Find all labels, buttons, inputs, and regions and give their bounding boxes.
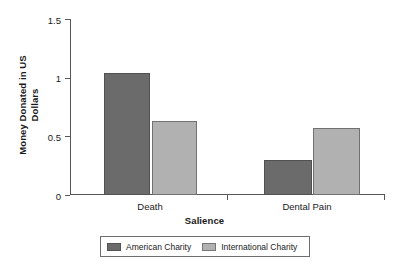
- legend-swatch-american-charity: [107, 243, 121, 251]
- bar-death-american-charity: [104, 73, 150, 195]
- x-category-label-dental-pain: Dental Pain: [282, 201, 331, 212]
- bar-death-international-charity: [152, 121, 197, 195]
- y-tick-label-1point5: 1.5: [48, 14, 61, 25]
- chart-legend: American Charity International Charity: [100, 236, 310, 257]
- y-tick-1: 1: [65, 78, 70, 79]
- y-tick-0point5: 0.5: [65, 136, 70, 137]
- y-tick-0: 0: [65, 195, 70, 196]
- y-tick-label-0point5: 0.5: [48, 131, 61, 142]
- x-category-label-death: Death: [137, 201, 162, 212]
- plot-area: 0 0.5 1 1.5: [70, 19, 385, 195]
- bar-dental-pain-american-charity: [264, 160, 312, 195]
- legend-label-american-charity: American Charity: [126, 242, 191, 252]
- bar-chart-figure: Money Donated in US Dollars 0 0.5 1 1.5: [0, 0, 409, 267]
- y-axis-title: Money Donated in US Dollars: [8, 10, 48, 200]
- y-tick-label-0: 0: [56, 190, 61, 201]
- legend-item-american-charity[interactable]: American Charity: [107, 242, 191, 252]
- x-axis-title: Salience: [0, 215, 409, 226]
- y-tick-label-1: 1: [56, 73, 61, 84]
- legend-label-international-charity: International Charity: [221, 242, 297, 252]
- y-axis-title-line2: Dollars: [28, 89, 39, 122]
- legend-swatch-international-charity: [202, 243, 216, 251]
- y-tick-1point5: 1.5: [65, 19, 70, 20]
- legend-item-international-charity[interactable]: International Charity: [202, 242, 297, 252]
- bar-dental-pain-international-charity: [313, 128, 360, 195]
- x-tick-separator: [227, 195, 228, 200]
- y-axis-line: [70, 19, 71, 195]
- x-tick-end: [384, 195, 385, 200]
- y-axis-title-line1: Money Donated in US: [17, 55, 28, 155]
